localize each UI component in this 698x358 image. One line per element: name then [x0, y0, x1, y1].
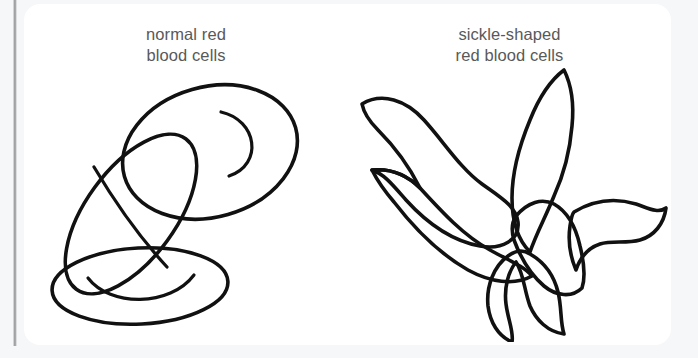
normal-cells-svg: [24, 64, 348, 342]
panel-normal-red-blood-cells: normal red blood cells: [24, 4, 348, 345]
large-oval-cell-dimple: [221, 112, 252, 176]
caption-sickle-shaped-red-blood-cells: sickle-shaped red blood cells: [348, 24, 671, 66]
panel-sickle-shaped-red-blood-cells: sickle-shaped red blood cells: [348, 4, 671, 345]
flat-ellipse-cell: [50, 243, 230, 328]
large-oval-cell: [107, 65, 314, 239]
figure-root: normal red blood cells: [0, 0, 698, 358]
flat-ellipse-cell-dimple: [88, 275, 194, 299]
sickle-cells-svg: [348, 64, 671, 342]
left-vertical-rule: [13, 0, 17, 346]
illustration-normal-red-blood-cells: [24, 64, 348, 342]
sickle-cell-upper-left: [362, 98, 518, 247]
caption-normal-red-blood-cells: normal red blood cells: [24, 24, 348, 66]
sickle-cell-upper-right: [512, 70, 573, 252]
tilted-oval-cell: [40, 112, 222, 315]
illustration-sickle-shaped-red-blood-cells: [348, 64, 671, 342]
figure-card: normal red blood cells: [24, 4, 671, 345]
